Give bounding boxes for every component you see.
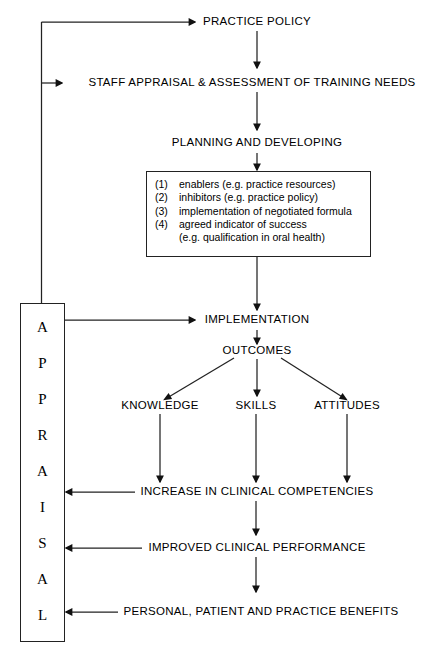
- node-planning-and-developing: PLANNING AND DEVELOPING: [172, 137, 343, 149]
- detail-item: (3) implementation of negotiated formula: [155, 205, 369, 218]
- node-increase-in-clinical-competencies: INCREASE IN CLINICAL COMPETENCIES: [140, 486, 373, 498]
- node-attitudes: ATTITUDES: [314, 400, 380, 412]
- appraisal-letter: L: [38, 608, 47, 623]
- detail-item-continuation: (4) (e.g. qualification in oral health): [155, 231, 369, 244]
- detail-item: (1) enablers (e.g. practice resources): [155, 178, 369, 191]
- appraisal-letter: A: [37, 320, 48, 335]
- arrow-outcomes-to-knowledge: [167, 358, 234, 398]
- node-personal-patient-practice-benefits: PERSONAL, PATIENT AND PRACTICE BENEFITS: [124, 606, 399, 618]
- appraisal-letter: P: [38, 356, 46, 371]
- node-implementation: IMPLEMENTATION: [205, 314, 310, 326]
- detail-item-number: (4): [155, 218, 179, 231]
- detail-item-number: (2): [155, 191, 179, 204]
- detail-item-text: enablers (e.g. practice resources): [179, 178, 369, 191]
- detail-item-text: agreed indicator of success: [179, 218, 369, 231]
- appraisal-letters-column: A P P R A I S A L: [20, 303, 65, 642]
- detail-item: (4) agreed indicator of success: [155, 218, 369, 231]
- node-knowledge: KNOWLEDGE: [121, 400, 198, 412]
- node-improved-clinical-performance: IMPROVED CLINICAL PERFORMANCE: [148, 542, 365, 554]
- node-outcomes: OUTCOMES: [223, 345, 292, 357]
- detail-item-text: implementation of negotiated formula: [179, 205, 369, 218]
- detail-item: (2) inhibitors (e.g. practice policy): [155, 191, 369, 204]
- appraisal-letter: I: [40, 500, 45, 515]
- flowchart-diagram: A P P R A I S A L PRACTICE POLICY STAFF …: [0, 0, 439, 653]
- flowchart-connectors: [0, 0, 439, 653]
- node-skills: SKILLS: [236, 400, 277, 412]
- node-practice-policy: PRACTICE POLICY: [203, 16, 311, 28]
- appraisal-letter: P: [38, 392, 46, 407]
- appraisal-letter: A: [37, 464, 48, 479]
- detail-item-continuation-text: (e.g. qualification in oral health): [179, 231, 369, 244]
- appraisal-letter: A: [37, 572, 48, 587]
- detail-item-number: (1): [155, 178, 179, 191]
- appraisal-letter: R: [37, 428, 47, 443]
- node-staff-appraisal: STAFF APPRAISAL & ASSESSMENT OF TRAINING…: [88, 77, 415, 89]
- arrow-outcomes-to-attitudes: [281, 358, 344, 398]
- detail-box-list: (1) enablers (e.g. practice resources) (…: [155, 178, 369, 244]
- detail-item-text: inhibitors (e.g. practice policy): [179, 191, 369, 204]
- detail-item-number: (3): [155, 205, 179, 218]
- appraisal-letter: S: [38, 536, 46, 551]
